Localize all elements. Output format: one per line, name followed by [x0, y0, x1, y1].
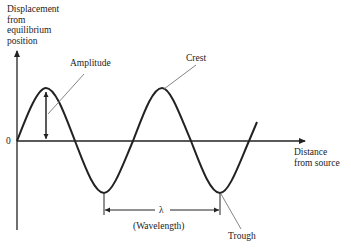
x-axis-label-line: Distance [294, 147, 340, 158]
lambda-symbol: λ [157, 205, 166, 216]
y-axis-label-line: equilibrium [7, 25, 59, 36]
y-axis-label-line: Displacement [7, 4, 59, 15]
crest-leader [164, 65, 196, 89]
y-axis-label-line: from [7, 15, 59, 26]
x-axis-label: Distance from source [294, 147, 340, 168]
trough-leader [221, 194, 241, 229]
wave-diagram: Displacement from equilibrium position D… [0, 0, 351, 251]
trough-label: Trough [228, 231, 256, 242]
wavelength-label: (Wavelength) [133, 221, 184, 232]
amplitude-label: Amplitude [70, 58, 111, 69]
x-axis-label-line: from source [294, 158, 340, 169]
y-axis-label: Displacement from equilibrium position [7, 4, 59, 46]
crest-label: Crest [186, 53, 206, 64]
y-axis-label-line: position [7, 36, 59, 47]
origin-label: 0 [6, 136, 11, 147]
